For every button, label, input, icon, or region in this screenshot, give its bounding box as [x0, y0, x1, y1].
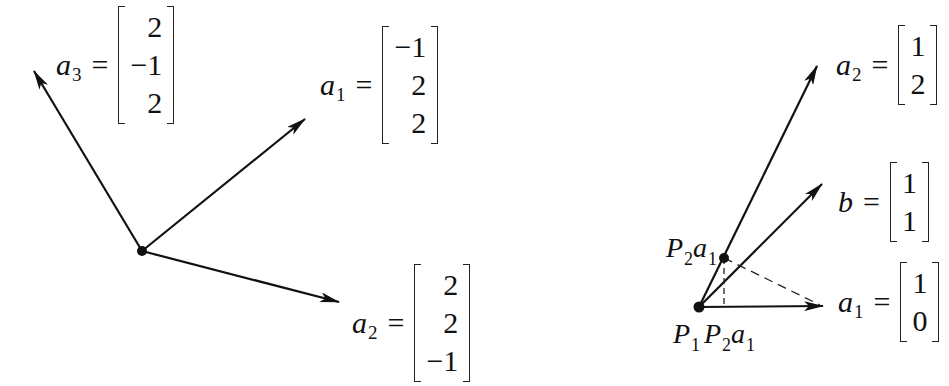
- matrix-cell: 2: [147, 8, 162, 46]
- index: 2: [684, 249, 693, 269]
- label-b: b = 1 1: [838, 162, 929, 242]
- var-index: 3: [72, 65, 82, 84]
- var-index: 1: [336, 85, 346, 104]
- matrix-cell: −1: [394, 28, 426, 66]
- projection-point: [719, 253, 729, 263]
- var-name: a: [56, 50, 71, 80]
- vector-b-arrow: [699, 184, 822, 307]
- matrix-cell: 1: [912, 264, 927, 302]
- matrix-cell: 1: [910, 27, 925, 65]
- symbol-P: P: [704, 318, 721, 349]
- vector-a2-arrow: [142, 251, 339, 302]
- label-P1-origin: P1: [673, 318, 700, 350]
- origin-point-2d: [694, 302, 705, 313]
- var-index: 2: [368, 323, 378, 342]
- var-name: a: [320, 70, 335, 100]
- label-P2a1-origin: P2a1: [704, 318, 755, 350]
- symbol-a: a: [731, 318, 745, 349]
- origin-point: [137, 246, 147, 256]
- right-figure: [694, 66, 824, 313]
- label-a1: a1 = −1 2 2: [320, 26, 438, 144]
- column-vector-a2-2d: 1 2: [898, 25, 937, 105]
- symbol-P: P: [673, 318, 690, 349]
- matrix-cell: 2: [147, 84, 162, 122]
- label-a1-2d: a1 = 1 0: [838, 262, 939, 342]
- column-vector-a1: −1 2 2: [382, 26, 438, 144]
- matrix-cell: −1: [130, 46, 162, 84]
- matrix-cell: 2: [411, 66, 426, 104]
- var-name: b: [838, 187, 853, 217]
- matrix-cell: −1: [426, 342, 458, 380]
- equals-sign: =: [92, 50, 109, 80]
- var-name: a: [836, 50, 851, 80]
- matrix-cell: 2: [411, 104, 426, 142]
- matrix-cell: 1: [902, 164, 917, 202]
- matrix-cell: 0: [912, 302, 927, 340]
- symbol-a: a: [693, 232, 707, 263]
- dashed-projection-error: [724, 258, 820, 305]
- column-vector-a3: 2 −1 2: [118, 6, 174, 124]
- matrix-cell: 2: [443, 266, 458, 304]
- column-vector-b: 1 1: [890, 162, 929, 242]
- matrix-cell: 2: [910, 65, 925, 103]
- var-name: a: [352, 308, 367, 338]
- equals-sign: =: [388, 308, 405, 338]
- column-vector-a1-2d: 1 0: [900, 262, 939, 342]
- matrix-cell: 2: [443, 304, 458, 342]
- index: 2: [722, 335, 731, 355]
- label-a2-2d: a2 = 1 2: [836, 25, 937, 105]
- equals-sign: =: [863, 187, 880, 217]
- label-a3: a3 = 2 −1 2: [56, 6, 174, 124]
- equals-sign: =: [356, 70, 373, 100]
- index: 1: [708, 249, 717, 269]
- vector-a1-arrow: [142, 119, 305, 251]
- var-index: 2: [852, 65, 862, 84]
- var-index: 1: [854, 302, 864, 321]
- symbol-P: P: [666, 232, 683, 263]
- label-a2: a2 = 2 2 −1: [352, 264, 470, 382]
- matrix-cell: 1: [902, 202, 917, 240]
- label-projection-P2a1-top: P2a1: [666, 232, 717, 264]
- vector-a2-arrow-2d: [699, 66, 817, 307]
- index: 1: [746, 335, 755, 355]
- vector-a1-arrow-2d: [699, 306, 823, 307]
- var-name: a: [838, 287, 853, 317]
- column-vector-a2: 2 2 −1: [414, 264, 470, 382]
- equals-sign: =: [872, 50, 889, 80]
- equals-sign: =: [874, 287, 891, 317]
- index: 1: [691, 335, 700, 355]
